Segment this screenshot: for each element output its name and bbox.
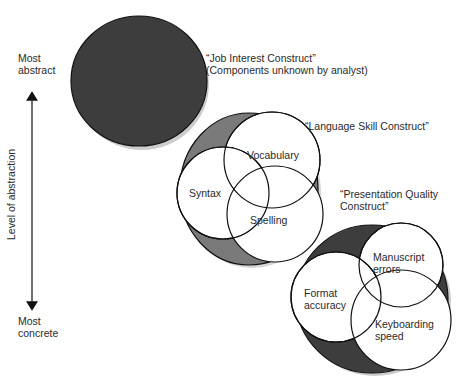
job-interest-construct-circle bbox=[71, 16, 209, 150]
vocabulary-label: Vocabulary bbox=[247, 149, 299, 161]
keyboarding-speed-label: Keyboarding speed bbox=[375, 318, 434, 342]
axis-title: Level of abstraction bbox=[5, 149, 17, 240]
most-concrete-label: Most concrete bbox=[18, 315, 58, 339]
spelling-label: Spelling bbox=[250, 214, 287, 226]
presentation-quality-construct-title: “Presentation Quality Construct” bbox=[340, 188, 438, 212]
format-accuracy-label: Format accuracy bbox=[304, 287, 346, 311]
language-skill-construct-title: “Language Skill Construct” bbox=[305, 120, 429, 132]
job-interest-construct-title: “Job Interest Construct” (Components unk… bbox=[206, 52, 368, 76]
syntax-label: Syntax bbox=[189, 187, 221, 199]
manuscript-errors-label: Manuscript errors bbox=[373, 251, 424, 275]
most-abstract-label: Most abstract bbox=[18, 52, 55, 76]
